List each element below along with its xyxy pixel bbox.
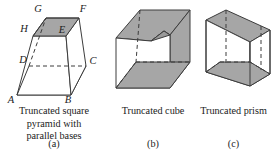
caption-line-1: Truncated square xyxy=(0,105,108,118)
sublabel-c: (c) xyxy=(190,138,277,149)
figure-truncated-cube xyxy=(108,0,198,104)
vertex-label-c: C xyxy=(89,55,97,66)
vertex-label-g: G xyxy=(34,3,42,14)
caption-line-1: Truncated prism xyxy=(190,105,277,118)
truncated-prism-drawing xyxy=(198,0,277,104)
caption-line-1: Truncated cube xyxy=(104,105,202,118)
vertex-label-d: D xyxy=(18,54,27,65)
truncated-square-pyramid-drawing: G F H E D C A B xyxy=(0,0,104,104)
caption-truncated-prism: Truncated prism xyxy=(190,105,277,118)
vertex-label-h: H xyxy=(19,23,29,34)
truncated-cube-drawing xyxy=(108,0,198,104)
caption-truncated-cube: Truncated cube xyxy=(104,105,202,118)
vertex-label-b: B xyxy=(65,94,72,104)
sublabel-b: (b) xyxy=(104,138,202,149)
sublabel-a: (a) xyxy=(0,138,108,149)
vertex-label-f: F xyxy=(79,3,87,14)
figure-truncated-prism xyxy=(198,0,277,104)
figure-truncated-square-pyramid: G F H E D C A B xyxy=(0,0,104,104)
vertex-label-a: A xyxy=(7,94,15,104)
figure-panel: G F H E D C A B Truncated square pyramid… xyxy=(0,0,277,153)
vertex-label-e: E xyxy=(58,24,66,35)
caption-line-2: pyramid with xyxy=(0,118,108,131)
